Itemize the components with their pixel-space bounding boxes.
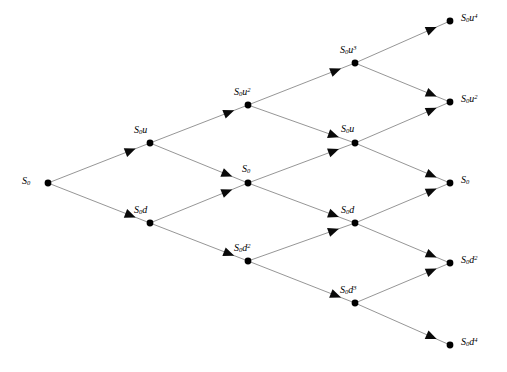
node-label-n4_2: S0 <box>461 175 469 186</box>
edge-arrowhead <box>425 104 439 117</box>
tree-edge-up <box>248 223 355 261</box>
edge-arrowhead <box>425 330 439 343</box>
node-label-n1_1: S0u <box>134 125 147 136</box>
binomial-tree-canvas <box>0 0 507 372</box>
node-label-n4_1: S0d2 <box>461 255 478 266</box>
arrowheads-group <box>124 23 439 344</box>
tree-node-dot[interactable] <box>245 258 252 265</box>
edge-arrowhead <box>327 145 341 157</box>
tree-node-dot[interactable] <box>352 60 359 67</box>
edge-arrowhead <box>425 169 439 182</box>
node-label-n2_1: S0 <box>242 164 250 175</box>
node-label-n3_2: S0u <box>341 124 354 135</box>
node-label-n0_0: S0 <box>22 176 30 187</box>
edge-arrowhead <box>425 264 439 277</box>
node-label-n1_0: S0d <box>134 205 147 216</box>
tree-node-dot[interactable] <box>447 18 454 25</box>
edge-arrowhead <box>124 144 138 157</box>
tree-node-dot[interactable] <box>447 342 454 349</box>
tree-edge-down <box>150 143 248 183</box>
edge-arrowhead <box>425 88 439 101</box>
nodes-group <box>45 18 454 349</box>
node-label-n3_0: S0d3 <box>340 285 357 296</box>
tree-node-dot[interactable] <box>352 140 359 147</box>
tree-node-dot[interactable] <box>352 220 359 227</box>
edge-arrowhead <box>425 249 439 262</box>
edge-arrowhead <box>327 209 341 221</box>
edge-arrowhead <box>327 129 340 141</box>
edge-arrowhead <box>220 168 234 181</box>
tree-node-dot[interactable] <box>352 300 359 307</box>
tree-node-dot[interactable] <box>447 99 454 106</box>
node-label-n4_4: S0u4 <box>461 13 478 24</box>
node-label-n4_0: S0d4 <box>461 337 478 348</box>
tree-node-dot[interactable] <box>147 220 154 227</box>
tree-node-dot[interactable] <box>447 260 454 267</box>
tree-node-dot[interactable] <box>447 180 454 187</box>
tree-node-dot[interactable] <box>245 180 252 187</box>
tree-node-dot[interactable] <box>45 180 52 187</box>
node-label-n3_3: S0u3 <box>340 45 357 56</box>
edge-arrowhead <box>329 64 343 77</box>
node-label-n2_2: S0u2 <box>234 87 251 98</box>
tree-edge-down <box>248 105 355 143</box>
node-label-n3_1: S0d <box>341 205 354 216</box>
tree-edge-up <box>150 183 248 223</box>
tree-node-dot[interactable] <box>245 102 252 109</box>
node-label-n4_3: S0u2 <box>461 94 478 105</box>
edge-arrowhead <box>220 185 234 198</box>
tree-node-dot[interactable] <box>147 140 154 147</box>
edge-arrowhead <box>425 23 439 36</box>
node-label-n2_0: S0d2 <box>234 243 251 254</box>
edge-arrowhead <box>222 106 236 119</box>
edge-arrowhead <box>327 224 340 236</box>
edge-arrowhead <box>425 184 439 197</box>
